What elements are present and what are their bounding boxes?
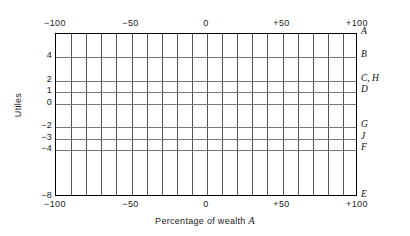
y-tick-label: −2	[30, 120, 52, 130]
y-tick-label: −3	[30, 132, 52, 142]
series-label-d: D	[361, 84, 368, 94]
x-tick-label: −50	[122, 18, 138, 28]
gridline-horizontal	[56, 57, 356, 58]
gridline-horizontal	[56, 92, 356, 93]
series-label-g: G	[361, 119, 368, 129]
x-tick-label: 0	[203, 199, 208, 209]
y-tick-label: 4	[30, 50, 52, 60]
series-label-ch: C, H	[361, 73, 379, 83]
y-tick-label: −4	[30, 143, 52, 153]
series-label-e: E	[361, 189, 367, 199]
x-tick-label: −100	[44, 18, 66, 28]
series-label-f: F	[361, 142, 367, 152]
gridline-horizontal	[56, 139, 356, 140]
series-label-a: A	[361, 26, 367, 36]
gridline-horizontal	[56, 150, 356, 151]
y-tick-label: 2	[30, 74, 52, 84]
x-axis-title-variable: A	[248, 215, 254, 226]
gridline-horizontal	[56, 127, 356, 128]
x-axis-title: Percentage of wealth A	[0, 215, 410, 226]
series-label-b: B	[361, 49, 367, 59]
series-label-j: J	[361, 131, 365, 141]
y-tick-label: 1	[30, 85, 52, 95]
x-tick-label: −50	[122, 199, 138, 209]
x-tick-label: +50	[273, 199, 289, 209]
y-tick-label: 0	[30, 97, 52, 107]
gridline-horizontal	[56, 81, 356, 82]
x-axis-title-text: Percentage of wealth	[155, 216, 248, 226]
x-tick-label: +100	[346, 199, 368, 209]
y-axis-title: Utiles	[13, 75, 23, 135]
x-tick-label: +50	[273, 18, 289, 28]
x-tick-label: −100	[44, 199, 66, 209]
plot-area	[55, 33, 357, 196]
gridline-horizontal	[56, 104, 356, 105]
utility-grid-figure: Utiles −100−500+50+100 4210−2−3−4−8 ABC,…	[0, 0, 410, 236]
x-tick-label: 0	[203, 18, 208, 28]
